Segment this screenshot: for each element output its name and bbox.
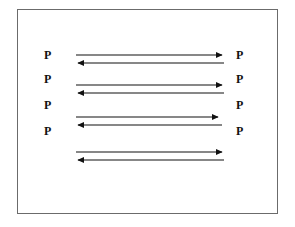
left-node-label-2: P [44,73,51,85]
right-node-label-1: P [236,49,243,61]
left-node-label-1: P [44,49,51,61]
diagram-screenshot: P P P P P P P P [0,0,295,227]
right-node-label-2: P [236,73,243,85]
right-node-label-3: P [236,99,243,111]
right-node-label-4: P [236,125,243,137]
left-node-label-3: P [44,99,51,111]
left-node-label-4: P [44,125,51,137]
